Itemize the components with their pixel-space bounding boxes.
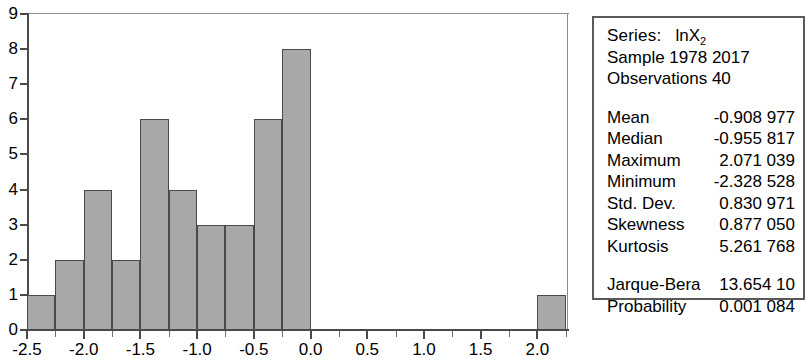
series-label: Series:	[607, 26, 661, 45]
y-axis-tick-label: 3	[0, 216, 18, 233]
y-axis-tick-label: 5	[0, 145, 18, 162]
x-axis-tick	[423, 331, 425, 339]
series-name: lnX2	[675, 26, 706, 45]
stat-value: 0.830 971	[719, 193, 795, 215]
y-axis-tick-label: 2	[0, 251, 18, 268]
histogram-bar	[27, 295, 55, 330]
stat-label: Skewness	[607, 214, 684, 236]
descriptive-stat-row: Median-0.955 817	[607, 128, 795, 150]
x-axis-minor-tick	[452, 331, 453, 337]
x-axis-tick	[26, 331, 28, 339]
x-axis-tick	[366, 331, 368, 339]
y-axis-tick-label: 6	[0, 110, 18, 127]
x-axis-tick-label: -0.5	[228, 341, 280, 358]
histogram-bar	[225, 225, 253, 330]
histogram-bar	[197, 225, 225, 330]
histogram-bar	[282, 49, 310, 330]
x-axis-tick	[536, 331, 538, 339]
descriptive-stat-row: Skewness0.877 050	[607, 214, 795, 236]
descriptive-stat-row: Maximum2.071 039	[607, 150, 795, 172]
x-axis-minor-tick	[282, 331, 283, 337]
y-axis-tick-label: 1	[0, 286, 18, 303]
stat-label: Std. Dev.	[607, 193, 676, 215]
x-axis-minor-tick	[169, 331, 170, 337]
descriptive-stat-row: Minimum-2.328 528	[607, 171, 795, 193]
histogram-figure: 0123456789 -2.5-2.0-1.5-1.0-0.50.00.51.0…	[0, 0, 580, 362]
stat-value: 2.071 039	[719, 150, 795, 172]
normality-test-row: Jarque-Bera13.654 10	[607, 274, 795, 296]
histogram-bar	[55, 260, 83, 330]
descriptive-stat-row: Kurtosis5.261 768	[607, 236, 795, 258]
stat-value: 5.261 768	[719, 236, 795, 258]
statistics-panel: Series: lnX2 Sample 1978 2017 Observatio…	[592, 16, 805, 300]
histogram-bar	[537, 295, 565, 330]
x-axis-tick	[196, 331, 198, 339]
series-name-subscript: 2	[700, 35, 706, 47]
descriptive-stats-list: Mean-0.908 977Median-0.955 817Maximum2.0…	[607, 107, 795, 258]
stat-label: Probability	[607, 296, 686, 318]
histogram-bar	[84, 190, 112, 330]
x-axis-minor-tick	[339, 331, 340, 337]
observations-line: Observations 40	[607, 68, 795, 90]
x-axis-tick	[310, 331, 312, 339]
stat-value: -2.328 528	[714, 171, 795, 193]
x-axis-minor-tick	[112, 331, 113, 337]
descriptive-stat-row: Std. Dev.0.830 971	[607, 193, 795, 215]
histogram-bar	[254, 119, 282, 330]
stats-spacer-top	[607, 90, 795, 107]
stat-label: Median	[607, 128, 663, 150]
stat-value: -0.908 977	[714, 107, 795, 129]
y-axis-tick-label: 7	[0, 75, 18, 92]
descriptive-stat-row: Mean-0.908 977	[607, 107, 795, 129]
y-axis-tick-label: 4	[0, 181, 18, 198]
stat-label: Kurtosis	[607, 236, 668, 258]
x-axis-minor-tick	[55, 331, 56, 337]
stat-label: Jarque-Bera	[607, 274, 701, 296]
stats-spacer-bottom	[607, 257, 795, 274]
x-axis-tick-label: -1.5	[114, 341, 166, 358]
stat-value: 0.001 084	[719, 296, 795, 318]
x-axis-tick-label: 1.0	[398, 341, 450, 358]
x-axis-tick-label: 0.0	[285, 341, 337, 358]
y-axis-tick-label: 0	[0, 321, 18, 338]
x-axis-tick	[83, 331, 85, 339]
y-axis-tick-label: 9	[0, 5, 18, 22]
stat-value: -0.955 817	[714, 128, 795, 150]
x-axis-tick	[139, 331, 141, 339]
x-axis-tick-label: -2.5	[1, 341, 53, 358]
histogram-bar	[140, 119, 168, 330]
series-name-base: lnX	[675, 26, 700, 45]
x-axis-minor-tick	[509, 331, 510, 337]
normality-test-row: Probability0.001 084	[607, 296, 795, 318]
plot-area	[27, 14, 568, 330]
x-axis-tick-label: 2.0	[511, 341, 563, 358]
stat-value: 13.654 10	[719, 274, 795, 296]
histogram-bar	[112, 260, 140, 330]
x-axis-tick	[253, 331, 255, 339]
normality-test-list: Jarque-Bera13.654 10Probability0.001 084	[607, 274, 795, 317]
x-axis-tick-label: 1.5	[455, 341, 507, 358]
x-axis-tick-label: -2.0	[58, 341, 110, 358]
stat-label: Minimum	[607, 171, 676, 193]
x-axis-minor-tick	[225, 331, 226, 337]
x-axis-tick	[480, 331, 482, 339]
stat-label: Mean	[607, 107, 650, 129]
x-axis-minor-tick	[566, 331, 567, 337]
series-name-line: Series: lnX2	[607, 25, 795, 47]
x-axis-tick-label: -1.0	[171, 341, 223, 358]
histogram-bar	[169, 190, 197, 330]
x-axis-minor-tick	[396, 331, 397, 337]
x-axis-tick-label: 0.5	[341, 341, 393, 358]
sample-line: Sample 1978 2017	[607, 47, 795, 69]
stat-value: 0.877 050	[719, 214, 795, 236]
stat-label: Maximum	[607, 150, 681, 172]
y-axis-tick-label: 8	[0, 40, 18, 57]
